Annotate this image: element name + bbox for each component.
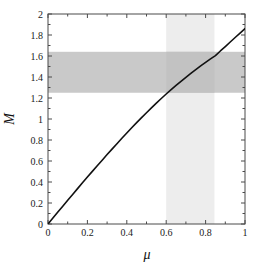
x-tick-label: 0.4 xyxy=(121,227,134,238)
y-tick-label: 1.8 xyxy=(31,30,44,41)
y-tick-label: 0.8 xyxy=(31,135,44,146)
y-axis-title: M xyxy=(2,112,17,126)
x-tick-label: 0.2 xyxy=(81,227,94,238)
y-tick-label: 1.6 xyxy=(31,51,44,62)
x-tick-label: 0.6 xyxy=(160,227,173,238)
y-tick-label: 0 xyxy=(38,219,43,230)
x-tick-label: 0.8 xyxy=(199,227,212,238)
y-tick-label: 1 xyxy=(38,114,43,125)
x-axis-title: μ xyxy=(142,247,150,262)
mu-constraint-band xyxy=(166,14,214,224)
y-tick-label: 0.6 xyxy=(31,156,44,167)
figure-container: 00.20.40.60.81 00.20.40.60.811.21.41.61.… xyxy=(0,0,262,266)
y-tick-label: 1.4 xyxy=(31,72,44,83)
y-tick-label: 1.2 xyxy=(31,93,44,104)
y-tick-label: 0.4 xyxy=(31,177,44,188)
x-tick-label: 1 xyxy=(243,227,248,238)
mass-constraint-band xyxy=(48,52,245,93)
chart-canvas: 00.20.40.60.81 00.20.40.60.811.21.41.61.… xyxy=(0,0,262,266)
y-tick-label: 0.2 xyxy=(31,198,44,209)
y-tick-label: 2 xyxy=(38,9,43,20)
x-tick-label: 0 xyxy=(46,227,51,238)
